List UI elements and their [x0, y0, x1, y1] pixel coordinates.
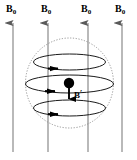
induced-field-label-prime: ′: [80, 89, 82, 98]
induced-field-label: B′: [74, 89, 82, 100]
field-label-3-subscript: 0: [88, 8, 92, 16]
field-label-2-symbol: B: [41, 3, 48, 14]
field-label-4-subscript: 0: [122, 8, 126, 16]
current-loop-bottom: [34, 100, 106, 116]
field-label-1: B0: [6, 4, 16, 17]
field-label-1-subscript: 0: [13, 8, 17, 16]
figure-canvas: [0, 0, 137, 160]
field-label-4-symbol: B: [115, 3, 122, 14]
nucleus-dot: [64, 78, 74, 88]
field-label-3: B0: [81, 4, 91, 17]
physics-figure: B0 B0 B0 B0 B′: [0, 0, 137, 160]
field-label-2: B0: [41, 4, 51, 17]
current-loop-top: [34, 54, 106, 70]
field-label-2-subscript: 0: [48, 8, 52, 16]
field-label-1-symbol: B: [6, 3, 13, 14]
field-label-3-symbol: B: [81, 3, 88, 14]
field-label-4: B0: [115, 4, 125, 17]
